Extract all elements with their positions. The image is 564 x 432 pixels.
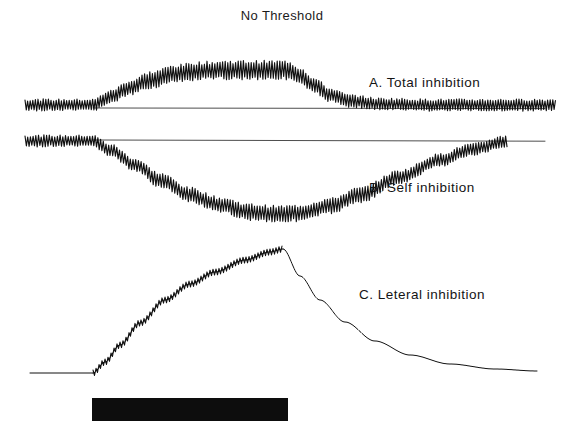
trace-label-b: B. Self inhibition <box>369 180 475 195</box>
trace-b-self-inhibition <box>25 135 545 222</box>
stimulus-bar-group <box>92 398 288 421</box>
recording-traces-canvas <box>0 0 564 432</box>
trace-a-reference-line <box>93 108 545 109</box>
trace-c-decay <box>283 249 537 371</box>
trace-c-rise-core <box>93 249 283 373</box>
trace-label-c: C. Leteral inhibition <box>359 287 485 302</box>
stimulus-bar <box>92 398 288 421</box>
trace-label-a: A. Total inhibition <box>369 75 480 90</box>
trace-c-rise-staircase <box>93 246 282 375</box>
figure-panel: No Threshold A. Total inhibition B. Self… <box>0 0 564 432</box>
trace-b-oscillation <box>25 135 507 222</box>
trace-b-reference-line <box>93 140 545 141</box>
trace-c-lateral-inhibition <box>30 246 537 375</box>
